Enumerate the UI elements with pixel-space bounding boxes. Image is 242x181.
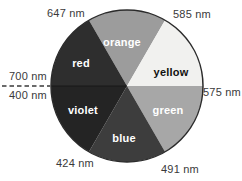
wavelength-label-491nm: 491 nm (161, 163, 199, 175)
wavelength-label-585nm: 585 nm (173, 8, 211, 20)
wavelength-label-700nm: 700 nm (9, 70, 47, 82)
wavelength-label-424nm: 424 nm (56, 157, 94, 169)
spectrum-color-wheel-diagram: 647 nm 585 nm 700 nm 400 nm 575 nm 424 n… (0, 0, 242, 181)
sector-label-orange: orange (103, 36, 141, 48)
sector-label-green: green (153, 104, 184, 116)
sector-label-red: red (72, 57, 90, 69)
wavelength-label-575nm: 575 nm (203, 86, 241, 98)
sector-label-yellow: yellow (154, 66, 189, 78)
wavelength-label-400nm: 400 nm (9, 89, 47, 101)
wavelength-label-647nm: 647 nm (47, 7, 85, 19)
sector-label-blue: blue (112, 132, 135, 144)
sector-label-violet: violet (68, 104, 98, 116)
